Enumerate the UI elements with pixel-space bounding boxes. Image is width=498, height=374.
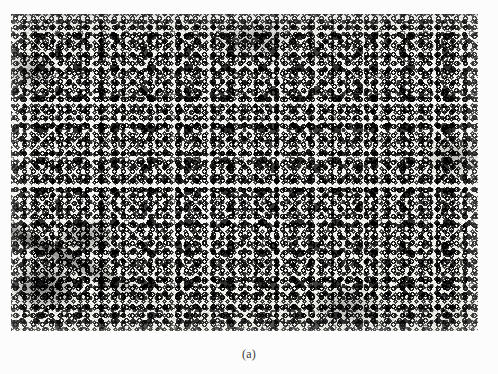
micrograph-image [11,14,478,331]
micrograph-vignette-layer [11,14,478,331]
figure-page: (a) [0,0,498,374]
figure-caption: (a) [0,346,498,362]
